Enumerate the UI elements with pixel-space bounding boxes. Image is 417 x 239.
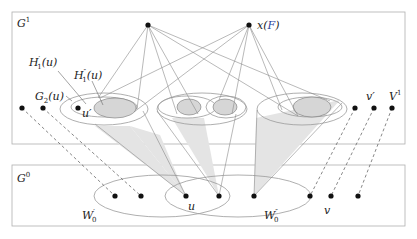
vertex-g0-1 xyxy=(112,193,117,198)
vertex-g0-6 xyxy=(307,193,312,198)
vertex-g1-right-3 xyxy=(389,105,394,110)
diagram-canvas: G1 G0 H′1(u) H″1(u) G2(u) u′ x(F) v′ V1 … xyxy=(0,0,417,239)
blob-right xyxy=(293,97,331,117)
label-v1: V1 xyxy=(389,89,401,103)
label-h1dprime: H″1(u) xyxy=(73,68,102,84)
layer-g1-frame xyxy=(12,12,405,144)
vertex-uprime xyxy=(75,105,80,110)
vertex-g0-2 xyxy=(138,193,143,198)
vertex-vprime xyxy=(371,105,376,110)
label-g0: G0 xyxy=(17,171,30,185)
vertex-xf xyxy=(246,22,251,27)
label-g2u: G2(u) xyxy=(35,90,64,105)
label-xf: x(F) xyxy=(257,19,279,32)
label-g1: G1 xyxy=(17,16,30,30)
vertex-v xyxy=(328,193,333,198)
label-v: v xyxy=(324,204,331,217)
vertex-g0-4 xyxy=(216,193,221,198)
vertex-g1-left-2 xyxy=(40,105,45,110)
label-u: u xyxy=(188,200,195,213)
label-w0dprime: W″0 xyxy=(264,208,278,224)
vertex-g0-5 xyxy=(251,193,256,198)
vertex-top-a xyxy=(145,22,150,27)
vertex-g1-right-1 xyxy=(352,105,357,110)
label-w0prime: W′0 xyxy=(82,208,96,224)
blob-h1dprime xyxy=(94,98,136,118)
label-h1prime: H′1(u) xyxy=(28,55,57,71)
label-vprime: v′ xyxy=(366,90,375,103)
vertex-u xyxy=(183,193,188,198)
vertex-g1-left-1 xyxy=(19,105,24,110)
label-uprime: u′ xyxy=(82,107,92,120)
vertex-g0-8 xyxy=(355,193,360,198)
